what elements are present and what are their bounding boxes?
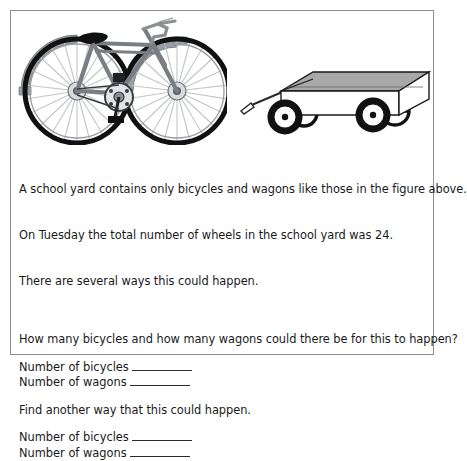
wagon-illustration xyxy=(233,57,433,143)
answer-row-wagons-2: Number of wagons xyxy=(19,446,427,461)
spacer xyxy=(19,418,427,430)
answer-row-wagons-1: Number of wagons xyxy=(19,375,427,390)
answer-row-bicycles-1: Number of bicycles xyxy=(19,360,427,375)
chainring-icon xyxy=(105,83,133,123)
intro-paragraph: A school yard contains only bicycles and… xyxy=(19,151,427,320)
answer-blank-wagons-1[interactable] xyxy=(130,375,190,386)
intro-line-2: On Tuesday the total number of wheels in… xyxy=(19,228,427,243)
pedal-icon xyxy=(108,116,124,123)
spacer xyxy=(19,348,427,360)
answer-label-wagons-2: Number of wagons xyxy=(19,446,127,460)
wagon-body-icon xyxy=(281,72,429,115)
answer-blank-bicycles-1[interactable] xyxy=(132,360,192,371)
intro-line-1: A school yard contains only bicycles and… xyxy=(19,182,427,197)
spacer xyxy=(19,320,427,332)
followup-line: Find another way that this could happen. xyxy=(19,403,427,418)
intro-line-3: There are several ways this could happen… xyxy=(19,274,427,289)
answer-label-bicycles-1: Number of bicycles xyxy=(19,360,129,374)
question-line: How many bicycles and how many wagons co… xyxy=(19,332,427,347)
figure-area xyxy=(11,11,433,145)
answer-row-bicycles-2: Number of bicycles xyxy=(19,430,427,445)
spacer xyxy=(19,391,427,403)
bicycle-illustration xyxy=(15,13,227,145)
answer-label-bicycles-2: Number of bicycles xyxy=(19,430,129,444)
problem-text: A school yard contains only bicycles and… xyxy=(19,151,427,461)
worksheet-card: A school yard contains only bicycles and… xyxy=(10,10,434,355)
answer-blank-wagons-2[interactable] xyxy=(130,446,190,457)
answer-blank-bicycles-2[interactable] xyxy=(132,430,192,441)
answer-label-wagons-1: Number of wagons xyxy=(19,375,127,389)
